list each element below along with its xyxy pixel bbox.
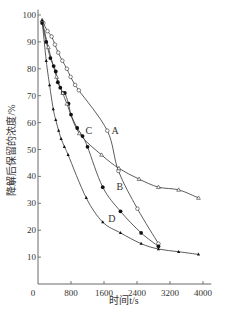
marker-open-circle	[53, 43, 57, 47]
marker-open-circle	[77, 89, 81, 93]
y-tick-label: 60	[27, 118, 37, 128]
marker-filled-triangle	[54, 118, 57, 121]
y-axis-label: 降解后保留的浓度/%	[5, 104, 17, 195]
y-tick-label: 20	[27, 225, 37, 235]
marker-open-circle	[69, 75, 73, 79]
marker-filled-circle	[54, 70, 58, 74]
marker-open-triangle	[55, 75, 59, 78]
series-label-A: A	[111, 125, 119, 136]
x-tick-label: 800	[64, 288, 78, 298]
marker-open-circle	[50, 35, 54, 39]
marker-filled-triangle	[52, 107, 55, 110]
origin-label: 0	[31, 288, 36, 298]
marker-filled-circle	[52, 64, 56, 68]
axes: 8001600240032004000102030405060708090100	[23, 10, 213, 298]
curve-A	[43, 23, 158, 244]
y-tick-label: 100	[23, 10, 37, 20]
marker-filled-circle	[139, 231, 143, 235]
y-tick-label: 90	[27, 37, 37, 47]
marker-filled-circle	[69, 113, 73, 117]
marker-open-circle	[106, 129, 110, 133]
marker-filled-triangle	[63, 145, 66, 148]
marker-filled-triangle	[67, 153, 70, 156]
markers	[40, 18, 200, 255]
marker-filled-triangle	[57, 129, 60, 132]
marker-filled-circle	[75, 126, 79, 130]
marker-open-circle	[136, 207, 140, 211]
chart: 8001600240032004000102030405060708090100…	[0, 0, 231, 319]
marker-filled-circle	[86, 145, 90, 149]
marker-filled-circle	[119, 209, 123, 213]
marker-open-circle	[61, 59, 65, 63]
y-tick-label: 50	[27, 145, 37, 155]
marker-filled-circle	[58, 86, 62, 90]
marker-filled-circle	[101, 185, 105, 189]
marker-filled-circle	[44, 40, 48, 44]
marker-filled-triangle	[60, 137, 63, 140]
marker-open-circle	[73, 83, 77, 87]
y-tick-label: 30	[27, 198, 37, 208]
x-tick-label: 3200	[161, 288, 180, 298]
marker-filled-circle	[56, 80, 60, 84]
series-label-C: C	[85, 125, 92, 136]
marker-filled-triangle	[48, 83, 51, 86]
y-tick-label: 40	[27, 171, 37, 181]
series-label-D: D	[108, 213, 115, 224]
marker-filled-triangle	[45, 59, 48, 62]
series-label-B: B	[116, 181, 123, 192]
y-tick-label: 80	[27, 64, 37, 74]
marker-open-circle	[46, 29, 50, 33]
marker-open-circle	[56, 51, 60, 55]
y-tick-label: 10	[27, 252, 37, 262]
marker-open-circle	[65, 67, 69, 71]
x-tick-label: 4000	[194, 288, 213, 298]
curve-D	[42, 20, 198, 254]
x-axis-label: 时间t/s	[109, 294, 139, 306]
y-tick-label: 70	[27, 91, 37, 101]
curves	[42, 20, 198, 254]
marker-filled-circle	[48, 56, 52, 60]
labels: ABCD	[85, 125, 123, 225]
